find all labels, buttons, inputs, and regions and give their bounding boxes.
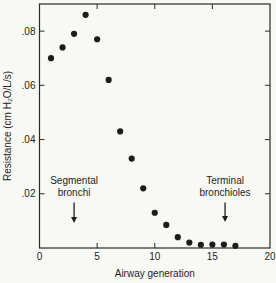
data-point: [106, 77, 112, 83]
scatter-plot: 05101520.02.04.06.08Airway generationRes…: [0, 0, 276, 283]
x-tick-label: 15: [207, 251, 219, 262]
y-tick-label: .02: [22, 188, 36, 199]
y-tick-label: .06: [22, 80, 36, 91]
data-point: [83, 12, 89, 18]
data-point: [175, 234, 181, 240]
x-tick-label: 20: [264, 251, 276, 262]
data-point: [129, 155, 135, 161]
terminal-bronchioles-label: bronchioles: [199, 187, 250, 198]
y-tick-label: .04: [22, 134, 36, 145]
segmental-bronchi-label: Segmental: [50, 175, 98, 186]
resistance-vs-airway-generation-figure: 05101520.02.04.06.08Airway generationRes…: [0, 0, 276, 283]
segmental-bronchi-label: bronchi: [58, 187, 91, 198]
x-tick-label: 10: [149, 251, 161, 262]
data-point: [186, 239, 192, 245]
terminal-bronchioles-arrowhead-icon: [222, 216, 228, 222]
terminal-bronchioles-label: Terminal: [206, 175, 244, 186]
data-point: [163, 222, 169, 228]
x-axis-title: Airway generation: [115, 268, 195, 279]
segmental-bronchi-arrowhead-icon: [71, 217, 77, 223]
data-point: [117, 128, 123, 134]
data-point: [71, 31, 77, 37]
x-tick-label: 5: [94, 251, 100, 262]
data-point: [209, 241, 215, 247]
y-tick-label: .08: [22, 26, 36, 37]
data-point: [232, 243, 238, 249]
data-point: [152, 210, 158, 216]
data-point: [48, 55, 54, 61]
data-point: [140, 185, 146, 191]
y-axis-title: Resistance (cm H₂O/L/s): [2, 71, 13, 181]
data-point: [221, 241, 227, 247]
data-point: [59, 44, 65, 50]
data-point: [198, 242, 204, 248]
data-point: [94, 36, 100, 42]
x-tick-label: 0: [37, 251, 43, 262]
